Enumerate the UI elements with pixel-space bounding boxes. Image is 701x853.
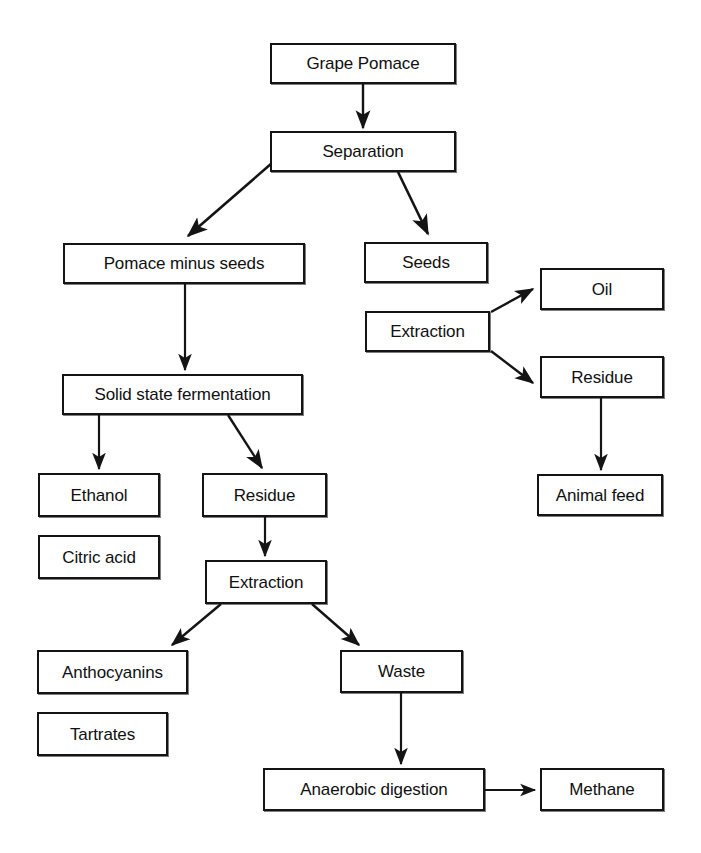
node-label: Grape Pomace (302, 55, 423, 72)
node-label: Extraction (386, 323, 469, 340)
edge-extraction-to-anthocyanins (172, 604, 221, 645)
node-label: Methane (565, 781, 638, 798)
node-pomace-minus-seeds[interactable]: Pomace minus seeds (63, 243, 305, 284)
node-residue-pomace[interactable]: Residue (202, 473, 327, 517)
node-solid-state-fermentation[interactable]: Solid state fermentation (62, 374, 303, 415)
node-separation[interactable]: Separation (270, 131, 456, 172)
edge-fermentation-to-residue (228, 415, 262, 468)
edge-separation-to-seeds (398, 172, 428, 234)
node-anaerobic-digestion[interactable]: Anaerobic digestion (263, 768, 485, 811)
node-label: Anaerobic digestion (296, 781, 451, 798)
node-label: Solid state fermentation (90, 386, 274, 403)
flowchart-canvas: Grape Pomace Separation Pomace minus see… (0, 0, 701, 853)
node-label: Separation (318, 143, 407, 160)
node-label: Oil (588, 281, 616, 298)
node-tartrates[interactable]: Tartrates (37, 712, 168, 756)
node-animal-feed[interactable]: Animal feed (537, 474, 663, 516)
node-methane[interactable]: Methane (540, 768, 664, 811)
node-extraction-pomace[interactable]: Extraction (205, 560, 327, 604)
node-grape-pomace[interactable]: Grape Pomace (270, 43, 456, 84)
node-label: Pomace minus seeds (100, 255, 269, 272)
node-label: Citric acid (58, 549, 140, 566)
node-seeds[interactable]: Seeds (364, 242, 488, 283)
node-label: Tartrates (66, 726, 139, 743)
edge-extraction-to-oil (491, 289, 533, 312)
node-label: Extraction (225, 574, 308, 591)
node-ethanol[interactable]: Ethanol (38, 473, 160, 517)
node-label: Animal feed (552, 487, 649, 504)
node-anthocyanins[interactable]: Anthocyanins (37, 650, 188, 694)
node-label: Residue (567, 369, 637, 386)
node-label: Ethanol (67, 487, 132, 504)
node-waste[interactable]: Waste (340, 650, 463, 693)
node-label: Seeds (398, 254, 454, 271)
node-label: Residue (230, 487, 300, 504)
edge-extraction-to-waste (312, 604, 359, 645)
node-label: Waste (374, 663, 429, 680)
node-extraction-seeds[interactable]: Extraction (365, 311, 490, 352)
node-residue-seeds[interactable]: Residue (540, 356, 664, 398)
node-label: Anthocyanins (58, 664, 167, 681)
edge-separation-to-pomace-minus-seeds (188, 163, 272, 236)
node-oil[interactable]: Oil (540, 268, 664, 310)
edge-extraction-to-residue (491, 351, 533, 383)
node-citric-acid[interactable]: Citric acid (38, 535, 160, 579)
